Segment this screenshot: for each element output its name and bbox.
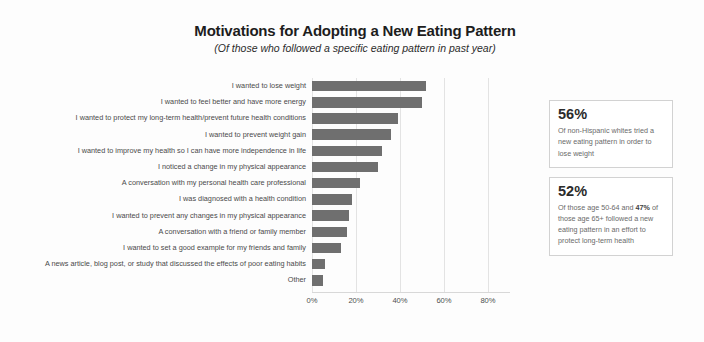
x-axis-tick-label: 20% xyxy=(348,296,363,305)
x-axis: 0%20%40%60%80% xyxy=(312,294,528,310)
callout-stat: 56% xyxy=(558,107,664,122)
category-label: I wanted to lose weight xyxy=(18,82,312,90)
bar-track xyxy=(312,240,528,256)
bar xyxy=(312,81,426,92)
bar-row: I wanted to feel better and have more en… xyxy=(18,94,528,110)
bar-row: I wanted to protect my long-term health/… xyxy=(18,110,528,126)
bar xyxy=(312,227,347,238)
bar-row: I wanted to set a good example for my fr… xyxy=(18,240,528,256)
chart-subtitle: (Of those who followed a specific eating… xyxy=(120,42,590,54)
bar xyxy=(312,97,422,108)
bar-row: I wanted to lose weight xyxy=(18,78,528,94)
bar-row: A news article, blog post, or study that… xyxy=(18,256,528,272)
callout-text: Of those age 50-64 and 47% of those age … xyxy=(558,202,664,247)
bar-track xyxy=(312,159,528,175)
category-label: I was diagnosed with a health condition xyxy=(18,195,312,203)
bar-row: I noticed a change in my physical appear… xyxy=(18,159,528,175)
callout-box: 56%Of non-Hispanic whites tried a new ea… xyxy=(549,100,673,168)
bar-track xyxy=(312,175,528,191)
category-label: A conversation with a friend or family m… xyxy=(18,228,312,236)
callout-text: Of non-Hispanic whites tried a new eatin… xyxy=(558,125,664,158)
bar-track xyxy=(312,224,528,240)
category-label: Other xyxy=(18,276,312,284)
x-axis-tick-label: 80% xyxy=(480,296,495,305)
category-label: I wanted to prevent weight gain xyxy=(18,131,312,139)
x-axis-tick-label: 0% xyxy=(307,296,318,305)
bar-row: I wanted to improve my health so I can h… xyxy=(18,143,528,159)
bar-row: I wanted to prevent any changes in my ph… xyxy=(18,208,528,224)
callout-list: 56%Of non-Hispanic whites tried a new ea… xyxy=(549,100,673,256)
category-label: I wanted to protect my long-term health/… xyxy=(18,114,312,122)
bar-track xyxy=(312,191,528,207)
plot-area: I wanted to lose weightI wanted to feel … xyxy=(18,78,528,303)
axis-baseline xyxy=(312,292,510,293)
bar-row: A conversation with a friend or family m… xyxy=(18,224,528,240)
category-label: A news article, blog post, or study that… xyxy=(18,260,312,268)
bar-row: A conversation with my personal health c… xyxy=(18,175,528,191)
callout-stat: 52% xyxy=(558,184,664,199)
bar-track xyxy=(312,143,528,159)
bar-row: I wanted to prevent weight gain xyxy=(18,127,528,143)
category-label: I wanted to set a good example for my fr… xyxy=(18,244,312,252)
chart-page: Motivations for Adopting a New Eating Pa… xyxy=(0,0,704,342)
x-axis-tick-label: 40% xyxy=(392,296,407,305)
bar xyxy=(312,259,325,270)
bar-track xyxy=(312,272,528,288)
category-label: I noticed a change in my physical appear… xyxy=(18,163,312,171)
bar-track xyxy=(312,127,528,143)
bar xyxy=(312,113,398,124)
bar xyxy=(312,275,323,286)
bar xyxy=(312,178,360,189)
bar-track xyxy=(312,256,528,272)
bar xyxy=(312,162,378,173)
category-label: A conversation with my personal health c… xyxy=(18,179,312,187)
bar-track xyxy=(312,94,528,110)
chart-title: Motivations for Adopting a New Eating Pa… xyxy=(120,22,590,39)
bar xyxy=(312,129,391,140)
category-label: I wanted to prevent any changes in my ph… xyxy=(18,212,312,220)
bar-track xyxy=(312,78,528,94)
bar-row: Other xyxy=(18,272,528,288)
bar-track xyxy=(312,208,528,224)
bar-rows: I wanted to lose weightI wanted to feel … xyxy=(18,78,528,288)
x-axis-tick-label: 60% xyxy=(436,296,451,305)
bar xyxy=(312,243,341,254)
bar-track xyxy=(312,110,528,126)
title-block: Motivations for Adopting a New Eating Pa… xyxy=(120,22,590,54)
category-label: I wanted to feel better and have more en… xyxy=(18,98,312,106)
bar-row: I was diagnosed with a health condition xyxy=(18,191,528,207)
category-label: I wanted to improve my health so I can h… xyxy=(18,147,312,155)
bar xyxy=(312,210,349,221)
bar xyxy=(312,146,382,157)
bar xyxy=(312,194,352,205)
callout-box: 52%Of those age 50-64 and 47% of those a… xyxy=(549,177,673,256)
